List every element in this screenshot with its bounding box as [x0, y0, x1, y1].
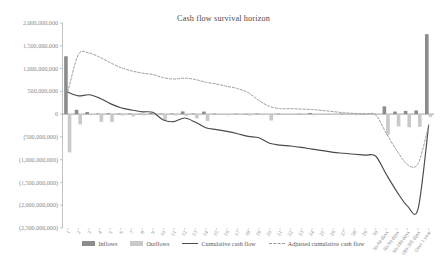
legend-label: Cumulative cash flow	[201, 240, 255, 247]
y-axis-tick-label: 1,000,000,000	[23, 66, 58, 72]
outflow-bar	[227, 114, 231, 115]
y-axis-tick-label: 2,000,000,000	[23, 20, 58, 26]
outflow-bar	[110, 114, 114, 122]
outflow-bar	[174, 114, 178, 115]
outflow-bar	[344, 114, 348, 115]
legend-swatch-dashed-line-icon	[269, 243, 285, 244]
legend-swatch-bar-icon	[130, 241, 143, 246]
adjusted-cumulative-line	[68, 51, 429, 167]
outflow-bar	[89, 114, 93, 115]
inflow-bar	[425, 34, 429, 114]
outflow-bar	[238, 114, 242, 115]
x-axis-tick-label: 10	[159, 229, 167, 237]
bar-series-group	[64, 34, 432, 152]
inflow-bar	[414, 110, 418, 114]
inflow-bar	[393, 112, 397, 115]
outflow-bar	[131, 114, 135, 116]
x-axis-tick-label: 27	[339, 229, 347, 237]
outflow-bar	[397, 114, 401, 126]
x-axis-tick-label: 22	[286, 229, 294, 237]
outflow-bar	[269, 114, 273, 120]
y-axis-tick-label: 500,000,000	[28, 88, 58, 94]
y-axis-tick-label: (2,000,000,000)	[19, 202, 58, 209]
outflow-bar	[354, 114, 358, 115]
y-axis-tick-label: (1,000,000,000)	[19, 157, 58, 164]
x-axis-tick-label: 16	[222, 229, 230, 237]
y-axis-tick-label: (500,000,000)	[23, 134, 58, 141]
x-axis-tick-label: 12	[180, 229, 188, 237]
y-axis-tick-label: 1,500,000,000	[23, 43, 58, 49]
x-axis-tick-label: 18	[244, 229, 252, 237]
legend-swatch-line-icon	[182, 243, 198, 244]
inflow-bar	[308, 113, 312, 114]
x-axis-tick-label: 30	[371, 229, 379, 237]
outflow-bar	[216, 114, 220, 115]
inflow-bar	[191, 114, 195, 115]
outflow-bar	[418, 114, 422, 127]
outflow-bar	[291, 114, 295, 115]
outflow-bar	[248, 114, 252, 115]
y-axis-tick-label: (2,500,000,000)	[19, 225, 58, 232]
inflow-bar	[75, 110, 79, 114]
legend-item[interactable]: Inflows	[82, 240, 117, 247]
x-axis-tick-label: 19	[254, 229, 262, 237]
outflow-bar	[280, 114, 284, 115]
inflow-bar	[404, 111, 408, 114]
x-axis-tick-label: 28	[350, 229, 358, 237]
inflow-bar	[85, 112, 89, 114]
legend-item[interactable]: Cumulative cash flow	[182, 240, 255, 247]
legend-swatch-bar-icon	[82, 241, 95, 246]
inflow-bar	[170, 114, 174, 115]
x-axis-tick-label: 11	[169, 229, 177, 237]
outflow-bar	[312, 114, 316, 115]
outflow-bar	[386, 114, 390, 135]
cumulative-line	[68, 92, 429, 214]
outflow-bar	[195, 114, 199, 118]
y-axis-tick-label: 0	[55, 111, 58, 117]
line-series-group	[68, 51, 429, 214]
outflow-bar	[259, 114, 263, 115]
chart-legend: InflowsOutflowsCumulative cash flowAdjus…	[0, 240, 447, 247]
x-axis-tick-label: 25	[318, 229, 326, 237]
inflow-bar	[128, 113, 132, 114]
legend-label: Inflows	[98, 240, 117, 247]
outflow-bar	[100, 114, 104, 122]
inflow-bar	[107, 113, 111, 114]
legend-item[interactable]: Adjusted cumulative cash flow	[269, 240, 365, 247]
y-axis: 2,000,000,0001,500,000,0001,000,000,0005…	[19, 20, 63, 232]
x-axis-tick-label: 17	[233, 229, 241, 237]
outflow-bar	[206, 114, 210, 121]
chart-container: Cash flow survival horizon 2,000,000,000…	[0, 0, 447, 260]
outflow-bar	[333, 114, 337, 115]
x-axis-tick-label: 20	[265, 229, 273, 237]
inflow-bar	[202, 112, 206, 115]
outflow-bar	[78, 114, 82, 124]
outflow-bar	[184, 114, 188, 116]
outflow-bar	[407, 114, 411, 127]
outflow-bar	[68, 114, 72, 152]
outflow-bar	[301, 114, 305, 115]
legend-label: Adjusted cumulative cash flow	[288, 240, 365, 247]
x-axis-tick-label: 21	[275, 229, 283, 237]
outflow-bar	[121, 114, 125, 115]
inflow-bar	[383, 106, 387, 114]
inflow-bar	[181, 111, 185, 114]
x-axis-tick-label: 13	[190, 229, 198, 237]
outflow-bar	[142, 114, 146, 115]
inflow-bar	[255, 114, 259, 115]
inflow-bar	[149, 113, 153, 114]
x-axis-tick-label: 26	[328, 229, 336, 237]
inflow-bar	[64, 56, 68, 114]
x-axis-tick-label: 14	[201, 229, 209, 237]
x-axis-tick-label: 24	[307, 229, 315, 237]
inflow-bar	[96, 114, 100, 115]
y-axis-tick-label: (1,500,000,000)	[19, 180, 58, 187]
x-axis: 1234567891011121314151617181920212223242…	[63, 114, 435, 256]
outflow-bar	[322, 114, 326, 115]
outflow-bar	[163, 114, 167, 120]
legend-label: Outflows	[146, 240, 169, 247]
legend-item[interactable]: Outflows	[130, 240, 169, 247]
outflow-bar	[429, 114, 433, 117]
x-axis-tick-label: 15	[212, 229, 220, 237]
chart-plot-area: 2,000,000,0001,500,000,0001,000,000,0005…	[0, 0, 447, 260]
